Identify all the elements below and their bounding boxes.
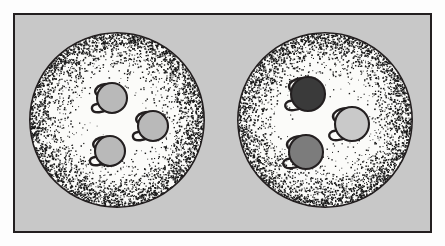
organelle-right-right-disc	[335, 107, 369, 141]
figure-root: Two stippled cells containing circular o…	[0, 0, 445, 246]
cell-diagram-svg	[15, 15, 430, 231]
organelle-right-top-disc	[291, 77, 325, 111]
cell-left	[29, 32, 206, 209]
organelle-left-right-disc	[138, 111, 168, 141]
organelle-left-top-disc	[97, 83, 127, 113]
organelle-right-bottom-disc	[289, 135, 323, 169]
organelle-left-bottom-disc	[95, 136, 125, 166]
cell-right	[236, 31, 413, 208]
figure-frame	[13, 13, 432, 233]
cells-layer	[29, 31, 414, 208]
